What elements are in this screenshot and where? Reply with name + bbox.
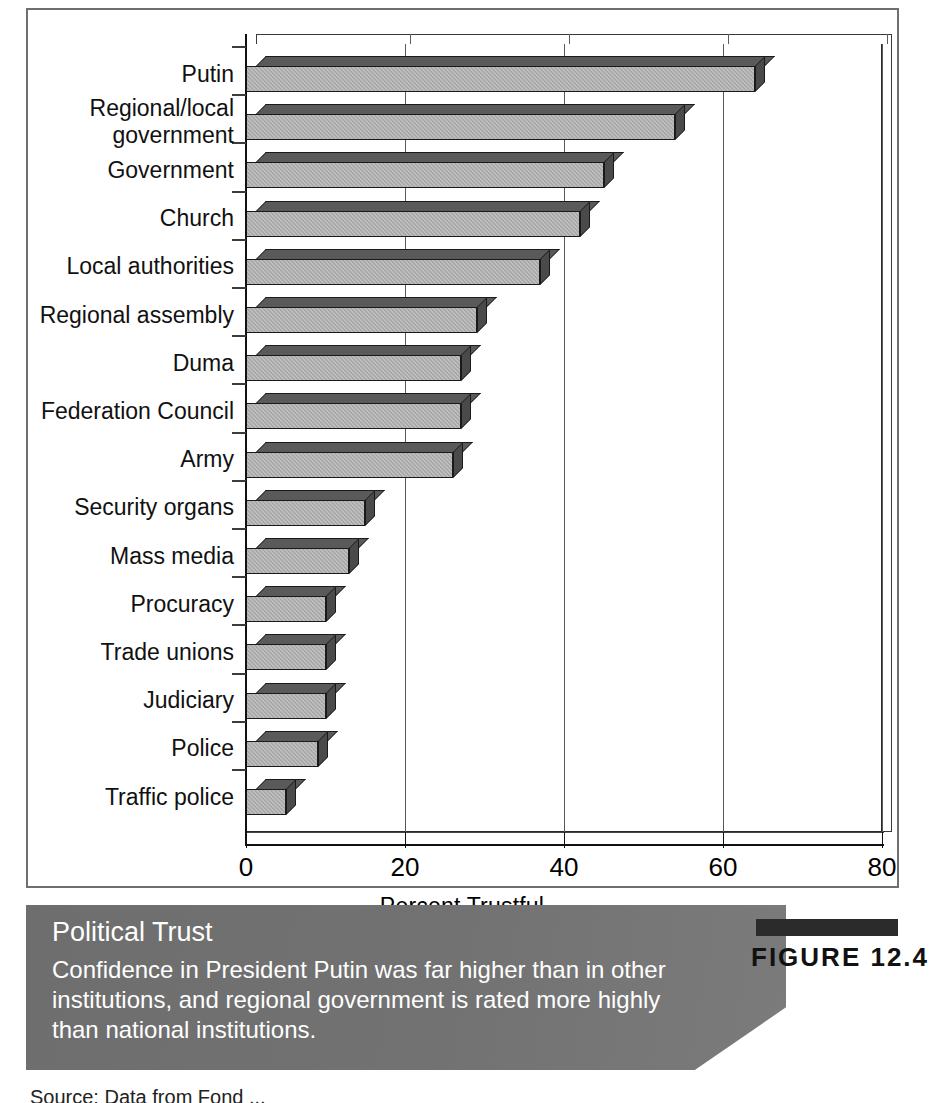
source-line: Source: Data from Fond ... xyxy=(30,1086,266,1103)
figure-badge-bar xyxy=(756,919,898,936)
figure-badge-label: FIGURE 12.4 xyxy=(751,942,929,973)
caption-title: Political Trust xyxy=(52,917,213,948)
caption-text: Confidence in President Putin was far hi… xyxy=(52,955,692,1045)
figure-frame xyxy=(26,8,899,888)
